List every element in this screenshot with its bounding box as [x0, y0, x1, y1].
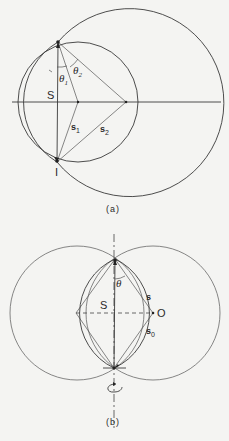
caption-b: (b) — [106, 417, 120, 427]
label-O: O — [157, 307, 166, 319]
chord-S — [114, 260, 115, 368]
figure-b: θ S s O s0 (b) — [10, 234, 220, 428]
rotation-arrow-icon — [108, 384, 122, 392]
label-I: I — [55, 166, 58, 178]
large-circle-arc — [57, 9, 224, 197]
label-theta: θ — [116, 277, 122, 289]
caption-a: (a) — [106, 204, 120, 214]
point-O — [152, 312, 155, 315]
label-s0: s0 — [146, 326, 155, 338]
rotation-arrowhead-icon — [113, 382, 116, 386]
label-theta1: θ1 — [59, 72, 68, 87]
center-point-2 — [125, 101, 128, 104]
label-s2: s2 — [100, 124, 109, 136]
angle-leader — [49, 70, 52, 72]
figure-a: θ1 θ2 S s1 s2 I (a) — [12, 9, 224, 214]
diagram-canvas: θ1 θ2 S s1 s2 I (a) — [0, 0, 229, 441]
chord-S — [57, 42, 58, 162]
label-S: S — [100, 299, 107, 311]
center-point-1 — [77, 101, 79, 103]
label-s1: s1 — [71, 122, 80, 134]
label-theta2: θ2 — [73, 64, 82, 79]
label-s: s — [146, 292, 151, 302]
angle-arc-theta1 — [57, 66, 67, 67]
label-S: S — [47, 89, 54, 101]
